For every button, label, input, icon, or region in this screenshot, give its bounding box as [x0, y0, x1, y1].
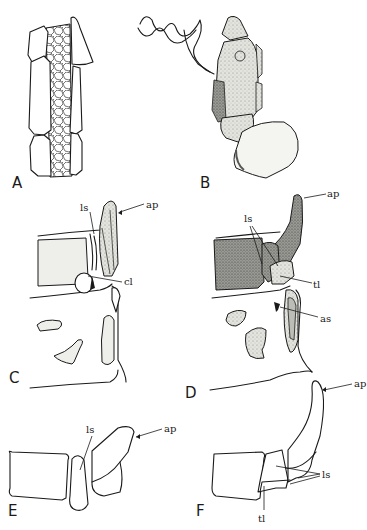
annotation-c-ap: ap [146, 199, 158, 210]
panel-label-e: E [8, 502, 17, 520]
panel-label-f: F [196, 502, 205, 520]
annotation-f-tl: tl [258, 513, 265, 524]
annotation-c-cl: cl [124, 276, 133, 287]
panel-label-c: C [9, 369, 19, 387]
annotation-d-ls: ls [244, 213, 252, 224]
annotation-f-ap: ap [354, 378, 366, 389]
panel-label-d: D [185, 384, 197, 402]
annotation-d-tl: tl [313, 279, 320, 290]
annotation-d-as: as [320, 313, 331, 324]
annotation-e-ls: ls [86, 424, 94, 435]
panel-b: B [138, 16, 298, 192]
panel-f: ap ls tl F [196, 378, 366, 524]
panel-c: ls ap cl C [9, 199, 158, 388]
annotation-c-ls: ls [80, 202, 88, 213]
annotation-d-ap: ap [327, 188, 339, 199]
annotation-e-ap: ap [164, 423, 176, 434]
panel-e: ls ap E [8, 423, 176, 520]
anatomical-figure: A B [0, 0, 367, 530]
annotation-f-ls: ls [322, 469, 330, 480]
panel-a: A [12, 17, 93, 192]
panel-label-a: A [12, 174, 23, 192]
panel-d: ls ap tl as D [185, 188, 339, 402]
panel-label-b: B [200, 174, 210, 192]
